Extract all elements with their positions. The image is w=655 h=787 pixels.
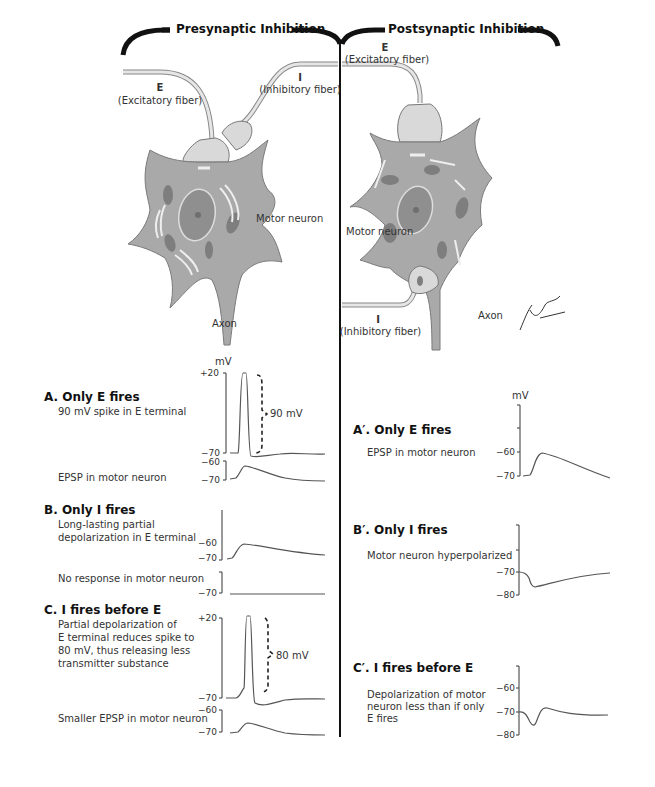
panel-c-desc1d: transmitter substance (58, 657, 169, 670)
panel-c-desc1b: E terminal reduces spike to (58, 631, 194, 644)
panel-a-desc1: 90 mV spike in E terminal (58, 405, 186, 418)
panel-b2-tick-bottom: −80 (496, 590, 515, 600)
left-e-letter: E (110, 82, 210, 94)
panel-a2-unit: mV (512, 390, 529, 402)
panel-c2-desc3: E fires (367, 712, 398, 725)
left-i-letter: I (255, 72, 345, 84)
panel-b-desc1a: Long-lasting partial (58, 518, 155, 531)
left-motor-neuron-label: Motor neuron (256, 213, 323, 225)
panel-a-unit: mV (215, 356, 232, 368)
right-e-label: (Excitatory fiber) (337, 54, 437, 66)
panel-b-title: B. Only I fires (44, 503, 135, 517)
left-motor-neuron-body (128, 140, 282, 345)
panel-c-desc1a: Partial depolarization of (58, 618, 177, 631)
panel-c2-tick-60: −60 (496, 683, 515, 693)
panel-a-desc2: EPSP in motor neuron (58, 471, 167, 484)
panel-c-desc1c: 80 mV, thus releasing less (58, 644, 190, 657)
panel-b2-title: B′. Only I fires (353, 523, 448, 537)
panel-c-spike-label: 80 mV (276, 650, 309, 662)
panel-a-spike-label: 90 mV (270, 408, 303, 420)
right-axon-label: Axon (478, 310, 503, 322)
header-postsynaptic: Postsynaptic Inhibition (388, 22, 544, 36)
panel-c-tick-bottom: −70 (198, 693, 217, 703)
panel-a-tick-top: +20 (200, 368, 219, 378)
panel-a-title: A. Only E fires (44, 390, 140, 404)
right-motor-neuron-label: Motor neuron (346, 226, 413, 238)
panel-b-tick-bottom: −70 (198, 553, 217, 563)
panel-a2-tick-top: −60 (496, 447, 515, 457)
panel-c2-title: C′. I fires before E (353, 661, 473, 675)
right-e-letter: E (340, 42, 430, 54)
right-i-label: (Inhibitory fiber) (338, 326, 423, 338)
panel-c-title: C. I fires before E (44, 603, 161, 617)
panel-b2-tick-top: −70 (496, 567, 515, 577)
panel-b2-desc: Motor neuron hyperpolarized (367, 549, 512, 562)
header-presynaptic: Presynaptic Inhibition (176, 22, 325, 36)
left-e-terminal (183, 138, 229, 162)
right-e-terminal (398, 104, 442, 142)
panel-a2-desc: EPSP in motor neuron (367, 446, 476, 459)
right-i-letter: I (338, 314, 418, 326)
panel-b-tick-top: −60 (198, 538, 217, 548)
panel-c-epsp-bottom: −70 (198, 727, 217, 737)
panel-c-tick-top: +20 (198, 613, 217, 623)
panel-a2-tick-bottom: −70 (496, 471, 515, 481)
panel-b-resp-bottom: −70 (198, 588, 217, 598)
panel-c-desc2: Smaller EPSP in motor neuron (58, 712, 208, 725)
left-i-label: (Inhibitory fiber) (255, 84, 345, 96)
panel-c2-tick-70: −70 (496, 707, 515, 717)
panel-a-epsp-top: −60 (201, 457, 220, 467)
left-e-label: (Excitatory fiber) (105, 95, 215, 107)
left-axon-label: Axon (212, 318, 237, 330)
panel-b-desc1b: depolarization in E terminal (58, 531, 196, 544)
panel-a2-title: A′. Only E fires (353, 423, 452, 437)
netter-signature (520, 296, 565, 330)
left-bracket (123, 30, 170, 55)
panel-a-epsp-bottom: −70 (201, 475, 220, 485)
panel-c2-tick-80: −80 (496, 730, 515, 740)
panel-b-desc2: No response in motor neuron (58, 572, 204, 585)
